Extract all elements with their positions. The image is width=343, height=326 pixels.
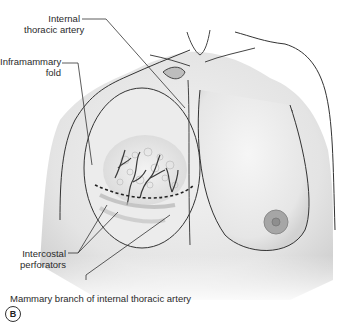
label-line: Intercostal — [10, 248, 66, 259]
label-internal-thoracic-artery: Internal thoracic artery — [24, 13, 80, 35]
label-intercostal-perforators: Intercostal perforators — [10, 248, 66, 270]
anatomy-figure: Internal thoracic artery Inframammary fo… — [0, 0, 343, 326]
label-inframammary-fold: Inframammary fold — [0, 56, 61, 78]
label-mammary-branch: Mammary branch of internal thoracic arte… — [10, 293, 191, 304]
panel-label-badge: B — [5, 306, 21, 322]
label-line: thoracic artery — [24, 24, 80, 35]
neck-line — [187, 30, 210, 55]
nipple — [272, 218, 280, 226]
torso-illustration — [0, 0, 343, 326]
label-line: perforators — [10, 259, 66, 270]
label-line: Internal — [24, 13, 80, 24]
label-line: Inframammary — [0, 56, 61, 67]
label-line: fold — [0, 67, 61, 78]
label-line: Mammary branch of internal thoracic arte… — [10, 293, 191, 304]
gland-tissue — [103, 135, 187, 205]
